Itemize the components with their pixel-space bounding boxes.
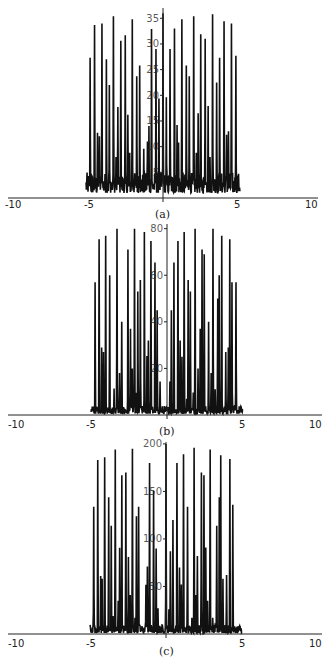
y-tick-label: 100 [143, 533, 162, 544]
x-tick-label: 5 [239, 419, 245, 430]
panel-b-caption: (b) [159, 425, 175, 438]
panel-c-caption: (c) [159, 645, 174, 658]
panel-a-caption: (a) [155, 208, 170, 221]
x-tick-label: -5 [84, 199, 94, 210]
y-tick-label: 20 [146, 90, 159, 101]
y-tick-label: 5 [153, 167, 159, 178]
y-tick-label: 10 [146, 141, 159, 152]
figure-three-panel-plot: 5101520253035 -10 -5 5 10 (a) 20406080 -… [0, 0, 329, 660]
y-tick-label: 150 [143, 486, 162, 497]
y-tick-label: 40 [150, 316, 163, 327]
panel-b-y-ticks: 20406080 [150, 223, 167, 419]
x-tick-label: 5 [239, 638, 245, 649]
panel-a: 5101520253035 -10 -5 5 10 (a) [5, 8, 318, 221]
y-tick-label: 35 [146, 13, 159, 24]
x-tick-label: 10 [309, 638, 322, 649]
y-tick-label: 20 [150, 363, 163, 374]
panel-c: 50100150200 -10 -5 5 10 (c) [8, 438, 322, 658]
x-tick-label: -5 [86, 638, 96, 649]
x-tick-label: -10 [5, 199, 21, 210]
y-tick-label: 25 [146, 64, 159, 75]
y-tick-label: 80 [150, 223, 163, 234]
x-tick-label: 5 [234, 199, 240, 210]
x-tick-label: -5 [86, 419, 96, 430]
panel-b: 20406080 -10 -5 5 10 (b) [8, 223, 322, 438]
x-tick-label: -10 [8, 638, 24, 649]
x-tick-label: -10 [8, 419, 24, 430]
y-tick-label: 15 [146, 115, 159, 126]
x-tick-label: 10 [305, 199, 318, 210]
y-tick-label: 200 [143, 438, 162, 449]
y-tick-label: 60 [150, 270, 163, 281]
y-tick-label: 30 [146, 38, 159, 49]
x-tick-label: 10 [309, 419, 322, 430]
y-tick-label: 50 [149, 581, 162, 592]
